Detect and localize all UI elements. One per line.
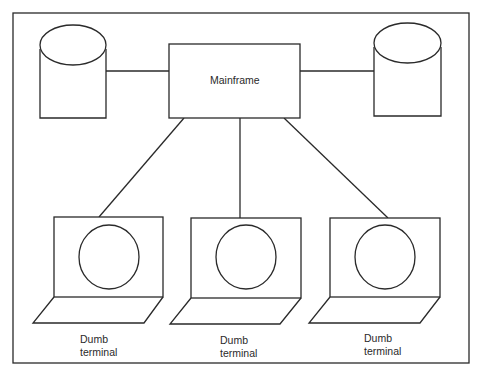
diagram-canvas — [0, 0, 480, 374]
mainframe-label: Mainframe — [210, 74, 260, 86]
terminal-3-label-line1: Dumb — [364, 332, 401, 345]
terminal-1-icon — [33, 217, 163, 323]
terminal-2-icon — [170, 218, 301, 324]
terminal-2-label-line1: Dumb — [220, 334, 257, 347]
terminal-3-icon — [309, 218, 440, 323]
edge-mainframe-terminal-1 — [99, 118, 184, 217]
terminal-2-label-line2: terminal — [220, 347, 257, 360]
terminal-3-label-line2: terminal — [364, 345, 401, 358]
terminal-3-label: Dumb terminal — [364, 332, 401, 358]
disk-left-cylinder-icon — [40, 25, 106, 118]
terminal-1-label-line1: Dumb — [80, 333, 117, 346]
disk-right-cylinder-icon — [374, 23, 441, 116]
terminal-1-label-line2: terminal — [80, 346, 117, 359]
terminal-2-label: Dumb terminal — [220, 334, 257, 360]
terminal-1-label: Dumb terminal — [80, 333, 117, 359]
edge-mainframe-terminal-3 — [284, 118, 388, 218]
